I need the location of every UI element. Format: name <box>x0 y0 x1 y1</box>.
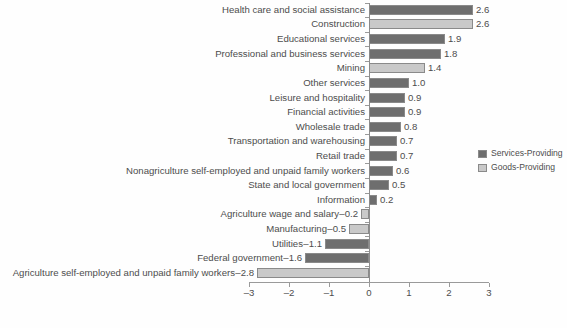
row-tick <box>365 32 369 33</box>
row-tick <box>365 46 369 47</box>
bar-services <box>369 122 401 132</box>
bar-value-label: 1.0 <box>412 78 425 88</box>
bar-row: Manufacturing–0.5 <box>0 222 567 237</box>
bar-row: Other services1.0 <box>0 76 567 91</box>
row-tick <box>365 236 369 237</box>
category-label: Other services <box>303 78 365 88</box>
row-tick <box>365 3 369 4</box>
bar-row: Professional and business services1.8 <box>0 46 567 61</box>
bar-value-label: –1.6 <box>283 253 302 263</box>
bar-row: Health care and social assistance2.6 <box>0 3 567 18</box>
bar-row: Educational services1.9 <box>0 32 567 47</box>
category-label: Wholesale trade <box>296 122 365 132</box>
bar-value-label: –0.5 <box>327 224 346 234</box>
bar-services <box>369 166 393 176</box>
category-label: Utilities <box>272 239 303 249</box>
bar-services <box>369 136 397 146</box>
bar-value-label: 2.6 <box>476 19 489 29</box>
bar-value-label: 0.6 <box>396 166 409 176</box>
bar-goods <box>257 268 369 278</box>
row-tick <box>365 163 369 164</box>
bar-goods <box>369 19 473 29</box>
legend-item-services[interactable]: Services-Providing <box>478 148 563 159</box>
legend-item-goods[interactable]: Goods-Providing <box>478 162 563 173</box>
bar-row: Wholesale trade0.8 <box>0 119 567 134</box>
category-label: State and local government <box>248 180 365 190</box>
legend-label: Services-Providing <box>491 148 563 159</box>
row-tick <box>365 105 369 106</box>
bar-row: Agriculture wage and salary–0.2 <box>0 207 567 222</box>
category-label: Financial activities <box>287 107 365 117</box>
bar-row: Transportation and warehousing0.7 <box>0 134 567 149</box>
chart-legend: Services-ProvidingGoods-Providing <box>478 148 563 176</box>
bar-row: Mining1.4 <box>0 61 567 76</box>
bar-row: State and local government0.5 <box>0 178 567 193</box>
bar-services <box>369 195 377 205</box>
bar-value-label: 0.7 <box>400 151 413 161</box>
bar-row: Federal government–1.6 <box>0 251 567 266</box>
row-tick <box>365 251 369 252</box>
row-tick <box>365 134 369 135</box>
bar-value-label: 0.2 <box>380 195 393 205</box>
bar-value-label: –0.2 <box>339 209 358 219</box>
bar-services <box>369 93 405 103</box>
x-axis-tick-label: 2 <box>446 288 451 298</box>
x-axis-tick-label: 3 <box>486 288 491 298</box>
bar-services <box>369 5 473 15</box>
row-tick <box>365 178 369 179</box>
legend-swatch-icon <box>478 164 487 172</box>
row-tick <box>365 17 369 18</box>
category-label: Health care and social assistance <box>222 5 365 15</box>
row-tick <box>365 90 369 91</box>
bar-services <box>369 180 389 190</box>
category-label: Agriculture self-employed and unpaid fam… <box>13 268 235 278</box>
bar-services <box>369 151 397 161</box>
category-label: Transportation and warehousing <box>228 136 365 146</box>
x-axis-tick-label: –1 <box>324 288 335 298</box>
category-label: Information <box>317 195 365 205</box>
category-label: Construction <box>311 19 365 29</box>
category-label: Retail trade <box>316 151 365 161</box>
bar-goods <box>361 209 369 219</box>
legend-label: Goods-Providing <box>491 162 555 173</box>
x-axis-tick-label: 0 <box>366 288 371 298</box>
bar-value-label: –1.1 <box>303 239 322 249</box>
bar-chart: –3–2–10123 Health care and social assist… <box>0 0 567 328</box>
bar-services <box>369 34 445 44</box>
row-tick <box>365 207 369 208</box>
bar-row: Leisure and hospitality0.9 <box>0 90 567 105</box>
category-label: Educational services <box>277 34 365 44</box>
bar-value-label: 0.5 <box>392 180 405 190</box>
bar-row: Information0.2 <box>0 193 567 208</box>
x-axis-tick-label: 1 <box>406 288 411 298</box>
bar-value-label: 0.9 <box>408 93 421 103</box>
bar-services <box>305 253 369 263</box>
bar-services <box>325 239 369 249</box>
bar-value-label: 1.8 <box>444 49 457 59</box>
bar-value-label: 1.9 <box>448 34 461 44</box>
bar-services <box>369 78 409 88</box>
row-tick <box>365 222 369 223</box>
bar-value-label: –2.8 <box>235 268 254 278</box>
x-axis-tick-label: –3 <box>244 288 255 298</box>
bar-goods <box>369 63 425 73</box>
category-label: Professional and business services <box>215 49 365 59</box>
category-label: Manufacturing <box>266 224 327 234</box>
category-label: Nonagriculture self-employed and unpaid … <box>126 166 365 176</box>
row-tick <box>365 193 369 194</box>
bar-row: Construction2.6 <box>0 17 567 32</box>
row-tick <box>365 61 369 62</box>
category-label: Mining <box>337 63 365 73</box>
bar-value-label: 0.9 <box>408 107 421 117</box>
bar-value-label: 2.6 <box>476 5 489 15</box>
row-tick <box>365 266 369 267</box>
bar-row: Utilities–1.1 <box>0 236 567 251</box>
bar-row: Agriculture self-employed and unpaid fam… <box>0 266 567 281</box>
bar-services <box>369 49 441 59</box>
bar-value-label: 0.8 <box>404 122 417 132</box>
row-tick <box>365 76 369 77</box>
category-label: Leisure and hospitality <box>270 93 365 103</box>
legend-swatch-icon <box>478 150 487 158</box>
bar-row: Financial activities0.9 <box>0 105 567 120</box>
row-tick <box>365 119 369 120</box>
